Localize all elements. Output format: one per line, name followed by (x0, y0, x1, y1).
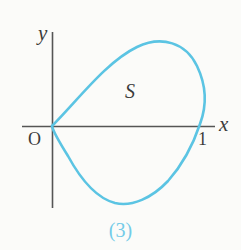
figure-caption: (3) (0, 220, 241, 240)
y-axis-label: y (38, 23, 47, 44)
region-label-s: S (125, 81, 135, 101)
loop-curve (52, 41, 205, 203)
plot-canvas (0, 0, 241, 250)
x-tick-label-1: 1 (198, 130, 207, 148)
origin-label: O (28, 130, 41, 148)
x-axis-label: x (219, 114, 228, 135)
figure-container: y x S O 1 (3) (0, 0, 241, 250)
